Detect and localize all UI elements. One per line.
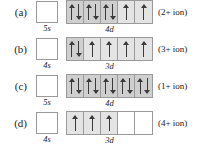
d-orbital-boxes xyxy=(66,0,153,24)
arrow-up-icon xyxy=(119,77,126,95)
ion-charge-label: (3+ ion) xyxy=(158,37,187,62)
d-orbital-cell xyxy=(67,38,84,60)
d-orbital-boxes xyxy=(66,37,153,61)
d-orbital-cell xyxy=(84,38,101,60)
row-label: (b) xyxy=(0,37,32,62)
ion-charge-label: (2+ ion) xyxy=(158,0,187,25)
s-orbital-group: 5s xyxy=(32,74,62,107)
ion-charge-label: (4+ ion) xyxy=(158,111,187,136)
orbital-row: (c)5s4d(1+ ion) xyxy=(0,74,204,111)
d-orbital-cell xyxy=(101,75,118,97)
orbital-row: (a)5s4d(2+ ion) xyxy=(0,0,204,37)
d-orbital-cell xyxy=(135,1,152,23)
electron-arrows xyxy=(118,38,134,60)
arrow-up-icon xyxy=(85,77,92,95)
arrow-up-icon xyxy=(102,3,109,21)
row-label: (a) xyxy=(0,0,32,25)
row-label: (c) xyxy=(0,74,32,99)
d-orbital-cell xyxy=(118,75,135,97)
s-orbital-group: 5s xyxy=(32,0,62,33)
arrow-up-icon xyxy=(140,3,147,21)
arrow-up-icon xyxy=(140,40,147,58)
arrow-up-icon xyxy=(123,3,130,21)
s-subshell-label: 4s xyxy=(32,135,62,144)
arrow-down-icon xyxy=(75,77,82,95)
d-orbital-boxes xyxy=(66,111,153,135)
arrow-up-icon xyxy=(137,77,144,95)
electron-arrows xyxy=(101,1,117,23)
electron-arrows xyxy=(84,1,100,23)
electron-arrows xyxy=(67,38,83,60)
row-label: (d) xyxy=(0,111,32,136)
electron-arrows xyxy=(101,38,117,60)
d-orbital-cell xyxy=(101,38,118,60)
arrow-up-icon xyxy=(102,77,109,95)
arrow-down-icon xyxy=(75,3,82,21)
s-orbital-box xyxy=(36,112,58,134)
electron-arrows xyxy=(135,75,152,97)
d-subshell-label: 3d xyxy=(66,62,153,71)
electron-arrows xyxy=(84,112,100,134)
s-orbital-box xyxy=(36,75,58,97)
d-orbital-cell xyxy=(135,75,152,97)
s-subshell-label: 5s xyxy=(32,24,62,33)
electron-arrows xyxy=(101,112,117,134)
electron-arrows xyxy=(118,1,134,23)
s-subshell-label: 5s xyxy=(32,98,62,107)
arrow-up-icon xyxy=(89,114,96,132)
d-orbital-cell xyxy=(135,112,152,134)
d-orbital-group: 3d xyxy=(66,37,153,71)
d-orbital-cell xyxy=(84,1,101,23)
electron-arrows xyxy=(84,38,100,60)
d-orbital-cell xyxy=(67,75,84,97)
arrow-up-icon xyxy=(72,114,79,132)
d-subshell-label: 4d xyxy=(66,99,153,108)
s-orbital-group: 4s xyxy=(32,37,62,70)
arrow-down-icon xyxy=(109,3,116,21)
s-orbital-box xyxy=(36,1,58,23)
ion-charge-label: (1+ ion) xyxy=(158,74,187,99)
arrow-up-icon xyxy=(68,40,75,58)
d-orbital-cell xyxy=(118,1,135,23)
electron-arrows xyxy=(67,1,83,23)
arrow-up-icon xyxy=(85,3,92,21)
electron-arrows xyxy=(84,75,100,97)
arrow-down-icon xyxy=(75,40,82,58)
d-orbital-cell xyxy=(101,1,118,23)
d-orbital-cell xyxy=(135,38,152,60)
arrow-up-icon xyxy=(106,114,113,132)
orbital-row: (d)4s3d(4+ ion) xyxy=(0,111,204,148)
electron-arrows xyxy=(101,75,117,97)
d-orbital-cell xyxy=(84,112,101,134)
s-orbital-box xyxy=(36,38,58,60)
d-orbital-cell xyxy=(67,1,84,23)
d-orbital-cell xyxy=(118,112,135,134)
arrow-up-icon xyxy=(68,77,75,95)
arrow-down-icon xyxy=(92,3,99,21)
orbital-row: (b)4s3d(3+ ion) xyxy=(0,37,204,74)
d-orbital-cell xyxy=(84,75,101,97)
d-orbital-group: 3d xyxy=(66,111,153,145)
d-orbital-cell xyxy=(101,112,118,134)
arrow-down-icon xyxy=(109,77,116,95)
electron-arrows xyxy=(118,75,134,97)
arrow-up-icon xyxy=(68,3,75,21)
arrow-up-icon xyxy=(123,40,130,58)
arrow-up-icon xyxy=(89,40,96,58)
s-subshell-label: 4s xyxy=(32,61,62,70)
electron-arrows xyxy=(135,38,152,60)
s-orbital-group: 4s xyxy=(32,111,62,144)
d-subshell-label: 3d xyxy=(66,136,153,145)
d-orbital-group: 4d xyxy=(66,0,153,34)
d-orbital-cell xyxy=(118,38,135,60)
orbital-diagram-figure: (a)5s4d(2+ ion)(b)4s3d(3+ ion)(c)5s4d(1+… xyxy=(0,0,204,159)
d-orbital-cell xyxy=(67,112,84,134)
arrow-down-icon xyxy=(126,77,133,95)
d-subshell-label: 4d xyxy=(66,25,153,34)
electron-arrows xyxy=(135,1,152,23)
electron-arrows xyxy=(67,75,83,97)
electron-arrows xyxy=(67,112,83,134)
arrow-down-icon xyxy=(92,77,99,95)
arrow-down-icon xyxy=(144,77,151,95)
arrow-up-icon xyxy=(106,40,113,58)
